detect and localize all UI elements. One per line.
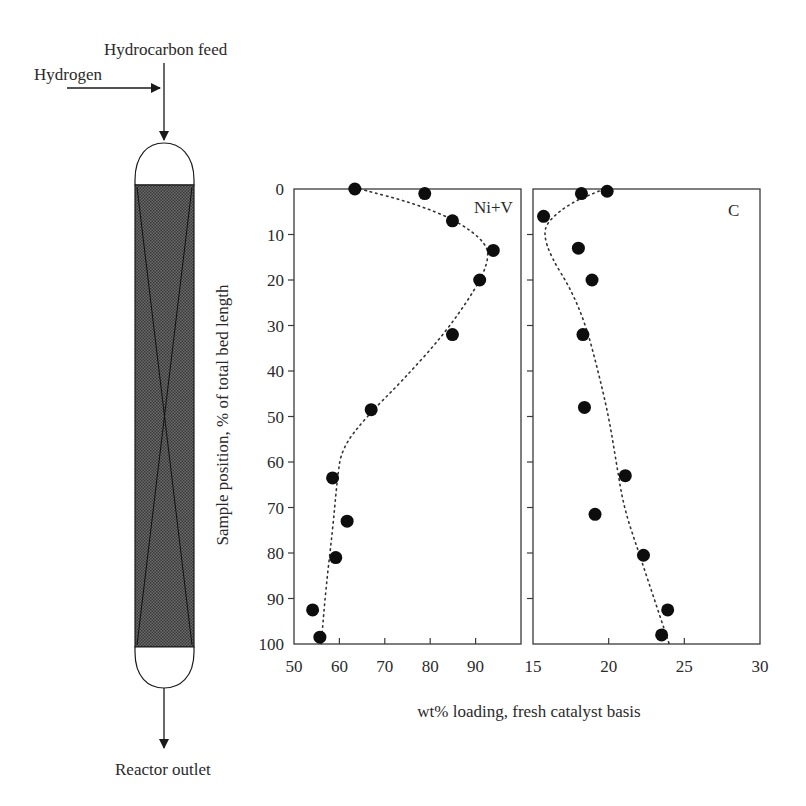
x-tick-label: 30 [752,657,769,676]
y-tick-label: 60 [267,453,284,472]
data-point [601,185,614,198]
data-point [446,214,459,227]
data-point [487,244,500,257]
data-point [329,551,342,564]
data-point [655,628,668,641]
carbon-panel-label: C [728,201,739,220]
y-tick-label: 0 [276,180,285,199]
data-point [326,471,339,484]
right-y-ticks [527,235,533,599]
reactor-schematic: Hydrocarbon feed Hydrogen Reactor outlet [34,40,228,779]
reactor-bottom-dome [135,647,194,688]
carbon-points [537,185,674,642]
x-tick-label: 50 [286,657,303,676]
y-tick-label: 80 [267,544,284,563]
data-point [576,328,589,341]
y-tick-label: 10 [267,226,284,245]
data-point [473,274,486,287]
x-tick-label: 90 [467,657,484,676]
y-tick-label: 70 [267,499,284,518]
data-point [418,187,431,200]
data-point [661,603,674,616]
data-point [637,549,650,562]
reactor-outlet-label: Reactor outlet [115,760,211,779]
reactor-figure: Hydrocarbon feed Hydrogen Reactor outlet… [0,0,806,806]
hydrocarbon-feed-label: Hydrocarbon feed [104,40,228,59]
data-point [348,183,361,196]
hydrogen-label: Hydrogen [34,65,102,84]
y-ticks: 0102030405060708090100 [259,180,295,654]
nickel-vanadium-panel: 0102030405060708090100 5060708090 Ni+V [259,180,522,676]
y-tick-label: 20 [267,271,284,290]
data-point [586,274,599,287]
data-point [313,631,326,644]
left-plot-frame [294,189,521,644]
y-tick-label: 50 [267,408,284,427]
x-tick-label: 25 [676,657,693,676]
data-point [578,401,591,414]
data-point [306,603,319,616]
x-axis-label: wt% loading, fresh catalyst basis [417,702,640,721]
ni-v-points [306,183,500,644]
y-tick-label: 100 [259,635,285,654]
reactor-top-dome [135,143,194,185]
x-tick-label: 60 [331,657,348,676]
ni-v-trend-line [321,189,487,644]
data-point [572,242,585,255]
data-point [341,515,354,528]
data-point [365,403,378,416]
x-tick-label: 20 [600,657,617,676]
x-tick-label: 70 [376,657,393,676]
carbon-trend-line [545,189,669,644]
data-point [537,210,550,223]
ni-v-panel-label: Ni+V [474,198,514,217]
data-point [575,187,588,200]
x-tick-label: 80 [422,657,439,676]
y-axis-label: Sample position, % of total bed length [213,284,232,546]
carbon-panel: 15202530 C [525,185,769,676]
data-point [619,469,632,482]
y-tick-label: 40 [267,362,284,381]
x-tick-label: 15 [525,657,542,676]
data-point [446,328,459,341]
y-tick-label: 30 [267,317,284,336]
data-point [589,508,602,521]
y-tick-label: 90 [267,590,284,609]
